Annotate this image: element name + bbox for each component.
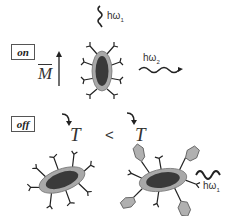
emitted-photon-label: hω2 <box>143 52 160 65</box>
left-curved-arrow-icon <box>62 114 69 122</box>
comparison-symbol: < <box>105 126 114 143</box>
right-curved-arrow-icon <box>127 113 134 121</box>
temperature-left-label: T <box>70 124 81 146</box>
absorbed-photon-wave-icon <box>98 6 102 27</box>
on-nanoparticle-icon <box>81 42 123 99</box>
off-right-nanoparticle-icon <box>111 133 211 216</box>
temperature-right-label: T <box>135 124 146 146</box>
off-photon-wave-icon <box>196 171 220 179</box>
on-state-label: on <box>11 44 35 60</box>
off-state-label: off <box>11 116 35 132</box>
diagram-graphics <box>0 0 232 216</box>
off-left-nanoparticle-icon <box>20 144 104 216</box>
emitted-photon-wave-icon <box>139 68 179 73</box>
absorbed-photon-label: hω1 <box>107 10 124 23</box>
magnetic-field-label: M <box>38 64 52 82</box>
off-emitted-photon-label: hω1 <box>203 180 220 193</box>
